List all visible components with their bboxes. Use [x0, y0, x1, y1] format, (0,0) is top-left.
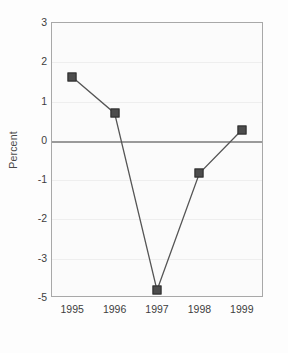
data-point-marker [237, 126, 246, 135]
data-point-marker [153, 286, 162, 295]
y-tick-label: -3 [21, 252, 47, 264]
data-series-line [51, 22, 263, 297]
y-tick-label: -1 [21, 173, 47, 185]
data-point-marker [68, 73, 77, 82]
y-tick-label: 3 [21, 16, 47, 28]
x-tick-label: 1995 [61, 303, 84, 315]
y-tick-label: 0 [21, 134, 47, 146]
data-point-marker [195, 169, 204, 178]
x-tick-label: 1996 [103, 303, 126, 315]
y-tick-label: -5 [21, 291, 47, 303]
y-axis-ticks: 3210-1-2-3-5 [15, 0, 47, 353]
y-tick-label: 2 [21, 55, 47, 67]
data-point-marker [110, 109, 119, 118]
x-tick-label: 1999 [230, 303, 253, 315]
x-tick-label: 1998 [188, 303, 211, 315]
line-chart: Percent 3210-1-2-3-5 1995199619971998199… [0, 0, 288, 353]
x-tick-label: 1997 [145, 303, 168, 315]
y-tick-label: -2 [21, 212, 47, 224]
y-tick-label: 1 [21, 95, 47, 107]
series-polyline [72, 77, 242, 290]
